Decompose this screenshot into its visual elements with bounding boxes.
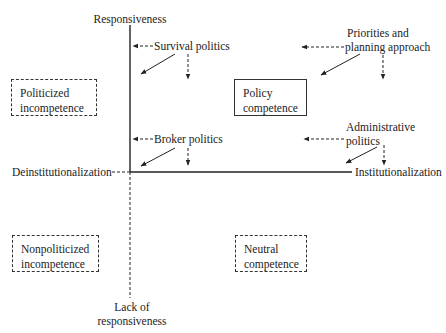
label-priorities-planning: Priorities and planning approach [345, 26, 430, 54]
label-priorities-line1: Priorities and [345, 26, 430, 40]
axis-label-lack-of-responsiveness: Lack of responsiveness [98, 300, 167, 328]
label-administrative-politics: Administrative politics [346, 120, 415, 148]
box-text-line1: Politicized [20, 86, 88, 101]
box-text-line2: competence [243, 101, 298, 116]
box-text-line2: incompetence [21, 257, 90, 272]
box-text-line1: Neutral [244, 242, 298, 257]
axis-label-responsiveness: Responsiveness [94, 12, 167, 26]
box-text-line1: Policy [243, 86, 298, 101]
box-text-line1: Nonpoliticized [21, 242, 90, 257]
axis-label-deinstitutionalization: Deinstitutionalization [12, 165, 112, 179]
axis-label-lack-line1: Lack of [98, 300, 167, 314]
label-broker-politics: Broker politics [154, 132, 223, 146]
label-administrative-line1: Administrative [346, 120, 415, 134]
box-policy-competence: Policy competence [234, 79, 307, 116]
label-priorities-line2: planning approach [345, 40, 430, 54]
axis-label-institutionalization: Institutionalization [355, 165, 442, 179]
box-nonpoliticized-incompetence: Nonpoliticized incompetence [12, 235, 99, 272]
axis-label-lack-line2: responsiveness [98, 314, 167, 328]
label-administrative-line2: politics [346, 134, 415, 148]
box-text-line2: incompetence [20, 101, 88, 116]
box-neutral-competence: Neutral competence [235, 235, 307, 272]
label-survival-politics: Survival politics [154, 39, 230, 53]
box-text-line2: competence [244, 257, 298, 272]
box-politicized-incompetence: Politicized incompetence [11, 79, 97, 116]
